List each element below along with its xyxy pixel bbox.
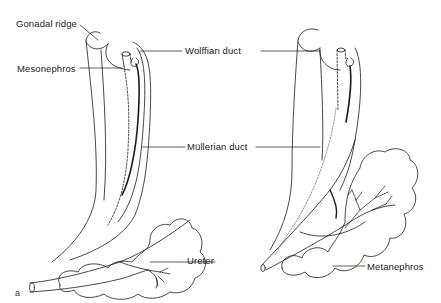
label-gonadal-ridge: Gonadal ridge	[16, 18, 77, 29]
label-mesonephros: Mesonephros	[17, 63, 76, 74]
right-drawing	[261, 29, 418, 278]
label-wolffian-duct: Wolffian duct	[185, 45, 241, 56]
metanephric-blob-left	[59, 219, 206, 299]
metanephric-blob-right	[282, 149, 418, 278]
label-mullerian-duct: Müllerian duct	[187, 141, 248, 152]
label-ureter: Ureter	[187, 255, 214, 266]
label-metanephros: Metanephros	[367, 261, 424, 272]
panel-label: a	[15, 288, 20, 298]
